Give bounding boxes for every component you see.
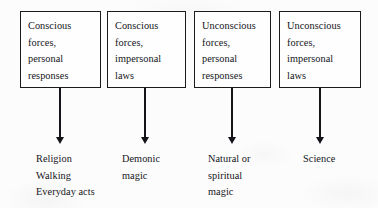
connector-line-column-4: [319, 88, 321, 138]
flow-box-label-column-3: Unconscious forces, personal responses: [202, 18, 267, 84]
flow-box-label-column-2: Conscious forces, impersonal laws: [115, 18, 182, 84]
down-arrow-icon-column-1: [56, 137, 64, 144]
flow-box-column-3: Unconscious forces, personal responses: [194, 11, 271, 88]
down-arrow-icon-column-3: [228, 137, 236, 144]
connector-line-column-3: [231, 88, 233, 138]
outcome-label-column-1: Religion Walking Everyday acts: [36, 151, 132, 201]
down-arrow-icon-column-2: [141, 137, 149, 144]
flow-box-column-2: Conscious forces, impersonal laws: [107, 11, 186, 88]
connector-line-column-2: [144, 88, 146, 138]
down-arrow-icon-column-4: [316, 137, 324, 144]
outcome-label-column-3: Natural or spiritual magic: [208, 151, 288, 201]
outcome-label-column-2: Demonic magic: [122, 151, 202, 184]
flow-box-column-4: Unconscious forces, impersonal laws: [279, 11, 361, 88]
connector-line-column-1: [59, 88, 61, 138]
flow-box-label-column-4: Unconscious forces, impersonal laws: [287, 18, 357, 84]
flow-box-label-column-1: Conscious forces, personal responses: [28, 18, 97, 84]
outcome-label-column-4: Science: [303, 151, 375, 168]
flow-box-column-1: Conscious forces, personal responses: [20, 11, 101, 88]
diagram-canvas: Conscious forces, personal responses Rel…: [0, 0, 378, 208]
